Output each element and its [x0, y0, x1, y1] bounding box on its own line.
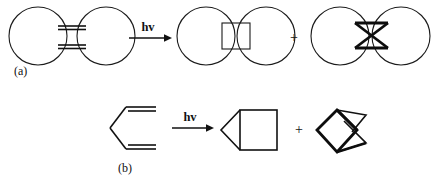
scheme-a-label: (a)	[14, 64, 27, 78]
scheme-b-label: (b)	[118, 161, 132, 175]
product-a2-ring-left	[311, 7, 369, 65]
reactant-a-ring-right	[77, 7, 135, 65]
scheme-b-product-straight	[221, 110, 277, 150]
product-b2-rhombus-face	[317, 110, 357, 152]
scheme-b-reactant	[110, 107, 156, 149]
reactant-b-double-bond-lower	[126, 145, 156, 149]
product-a2-crossed-bowtie	[355, 23, 388, 48]
reactant-b-chain-lower	[110, 128, 126, 149]
scheme-b-reaction-arrow: hv	[172, 110, 214, 132]
reactant-a-double-bond-upper	[58, 26, 86, 30]
scheme-a-plus-sign: +	[290, 30, 298, 45]
product-b1-cyclobutane-square	[240, 110, 277, 150]
product-a2-ring-right	[372, 7, 430, 65]
scheme-b-product-crossed	[317, 110, 366, 152]
scheme-b-hv-label: hv	[183, 110, 197, 124]
reaction-scheme-figure: (a) hv +	[0, 0, 438, 180]
scheme-b-arrow-head	[206, 124, 214, 132]
scheme-a-reaction-arrow: hv	[129, 20, 172, 42]
product-b1-triangle-apex	[221, 110, 240, 150]
scheme-canvas: (a) hv +	[0, 0, 438, 180]
product-a1-cyclobutane-square	[222, 23, 250, 49]
scheme-b-plus-sign: +	[295, 122, 303, 137]
scheme-a-product-crossed	[311, 7, 430, 65]
product-a1-ring-right	[237, 7, 295, 65]
reactant-b-double-bond-upper	[126, 107, 156, 111]
scheme-a-hv-label: hv	[141, 20, 155, 34]
scheme-a-reactant	[9, 7, 135, 65]
scheme-a-product-straight	[177, 7, 295, 65]
reactant-a-ring-left	[9, 7, 67, 65]
scheme-a-arrow-head	[164, 34, 172, 42]
product-a1-ring-left	[177, 7, 235, 65]
reactant-b-chain-upper	[110, 107, 126, 128]
reactant-a-double-bond-lower	[58, 45, 86, 49]
